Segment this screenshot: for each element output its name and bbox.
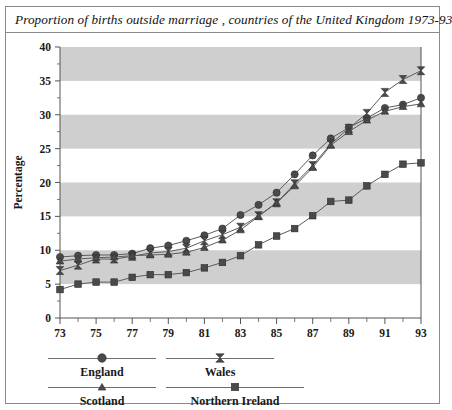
circle-marker (183, 237, 190, 244)
legend-label-wales: Wales (166, 365, 274, 380)
chart-legend: England Wales Scotland (0, 352, 446, 408)
circle-marker-icon (96, 352, 109, 365)
x-tick-label: 89 (343, 327, 355, 339)
x-tick-label: 77 (126, 327, 138, 339)
y-tick-label: 30 (40, 109, 52, 121)
legend-item-wales[interactable]: Wales (166, 352, 274, 380)
y-tick-label: 5 (45, 278, 51, 290)
figure-title-band: Proportion of births outside marriage , … (6, 7, 439, 33)
chart-area: 05101520253035407375777981838587899193Ye… (0, 33, 446, 343)
legend-label-northern-ireland: Northern Ireland (166, 394, 304, 409)
square-marker (291, 225, 298, 232)
square-marker (382, 171, 389, 178)
line-chart: 05101520253035407375777981838587899193Ye… (0, 33, 446, 343)
y-tick-label: 15 (40, 210, 52, 222)
legend-label-england: England (48, 365, 156, 380)
square-marker (75, 281, 82, 288)
square-marker (346, 197, 353, 204)
square-marker (237, 252, 244, 259)
square-marker (418, 160, 425, 167)
legend-sample-scotland (48, 381, 156, 393)
square-marker (165, 271, 172, 278)
y-tick-label: 25 (40, 143, 52, 155)
square-marker (147, 271, 154, 278)
square-marker (201, 265, 208, 272)
square-marker (400, 161, 407, 168)
square-marker-icon (229, 381, 242, 394)
square-marker (57, 286, 64, 293)
x-tick-label: 73 (54, 327, 66, 339)
x-tick-label: 93 (415, 327, 427, 339)
triangle-marker (417, 100, 425, 107)
page-title: Proportion of births outside marriage , … (6, 12, 452, 28)
legend-sample-wales (166, 352, 274, 364)
x-tick-label: 85 (271, 327, 283, 339)
y-tick-label: 20 (40, 177, 52, 189)
circle-marker (273, 189, 280, 196)
legend-sample-england (48, 352, 156, 364)
bowtie-marker (381, 88, 389, 96)
legend-item-scotland[interactable]: Scotland (48, 381, 156, 409)
circle-marker (255, 201, 262, 208)
square-marker (93, 279, 100, 286)
grid-band (60, 47, 421, 81)
square-marker (364, 183, 371, 190)
x-tick-label: 91 (379, 327, 391, 339)
square-marker (327, 198, 334, 205)
y-tick-label: 35 (40, 75, 52, 87)
square-marker (255, 242, 262, 249)
x-tick-label: 75 (90, 327, 102, 339)
legend-item-england[interactable]: England (48, 352, 156, 380)
legend-item-northern-ireland[interactable]: Northern Ireland (166, 381, 304, 409)
legend-sample-northern-ireland (166, 381, 304, 393)
circle-marker (291, 171, 298, 178)
x-tick-label: 83 (235, 327, 247, 339)
square-marker (129, 274, 136, 281)
x-tick-label: 87 (307, 327, 319, 339)
x-tick-label: 79 (163, 327, 175, 339)
square-marker (219, 259, 226, 266)
y-tick-label: 0 (45, 312, 51, 324)
triangle-marker (237, 226, 245, 233)
circle-marker (237, 211, 244, 218)
y-tick-label: 40 (40, 41, 52, 53)
bowtie-marker-icon (214, 352, 227, 365)
series-line (60, 71, 421, 271)
triangle-marker-icon (96, 381, 109, 394)
legend-label-scotland: Scotland (48, 394, 156, 409)
y-axis-title: Percentage (12, 155, 25, 209)
square-marker (273, 233, 280, 240)
circle-marker (309, 152, 316, 159)
square-marker (183, 269, 190, 276)
square-marker (309, 212, 316, 219)
square-marker (111, 279, 118, 286)
x-tick-label: 81 (199, 327, 211, 339)
y-tick-label: 10 (40, 244, 52, 256)
series-wales (56, 67, 425, 275)
